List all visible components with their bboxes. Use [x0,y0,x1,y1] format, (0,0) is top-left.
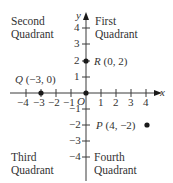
x-tick-label: 4 [143,97,149,108]
first-quadrant-label: First Quadrant [95,15,138,40]
fourth-quadrant-label: Fourth Quadrant [94,151,137,176]
point-q-name: Q [15,73,23,85]
point-r-coords: (0, 2) [103,55,127,67]
point-p-coords: (4, −2) [105,119,135,131]
x-tick-label: −3 [33,97,45,108]
x-tick-label: −4 [17,97,29,108]
x-tick-label: 3 [128,97,134,108]
third-quadrant-label: Third Quadrant [11,151,54,176]
point-p-label: P (4, −2) [96,119,136,131]
y-tick-label: −1 [69,103,81,114]
y-tick-label: 2 [74,55,80,66]
x-tick-label: 1 [98,97,104,108]
y-tick-label: 1 [74,71,80,82]
y-axis-label: y [76,10,81,21]
x-tick-label: −2 [48,97,60,108]
fourth-quadrant-line2: Quadrant [94,164,137,177]
x-axis-label: x [160,87,165,98]
y-tick-label: 4 [74,22,80,33]
first-quadrant-line2: Quadrant [95,28,138,41]
point-p-name: P [96,119,103,131]
point-r-name: R [94,55,101,67]
y-tick-label: −2 [69,119,81,130]
y-tick-label: −4 [69,151,81,162]
point-q-coords: (−3, 0) [26,73,56,85]
x-tick-label: 2 [113,97,119,108]
point-q-marker [38,90,43,95]
coordinate-plane-figure: Second Quadrant First Quadrant Third Qua… [0,0,173,183]
point-p-marker [144,122,149,127]
third-quadrant-line1: Third [11,151,54,164]
first-quadrant-line1: First [95,15,138,28]
second-quadrant-label: Second Quadrant [11,15,54,40]
point-q-label: Q (−3, 0) [15,73,56,85]
second-quadrant-line1: Second [11,15,54,28]
y-tick-label: 3 [74,38,80,49]
y-tick-label: −3 [69,135,81,146]
second-quadrant-line2: Quadrant [11,28,54,41]
third-quadrant-line2: Quadrant [11,164,54,177]
y-axis-arrow-icon [83,12,89,20]
point-r-label: R (0, 2) [94,55,127,67]
fourth-quadrant-line1: Fourth [94,151,137,164]
point-r-marker [83,58,88,63]
